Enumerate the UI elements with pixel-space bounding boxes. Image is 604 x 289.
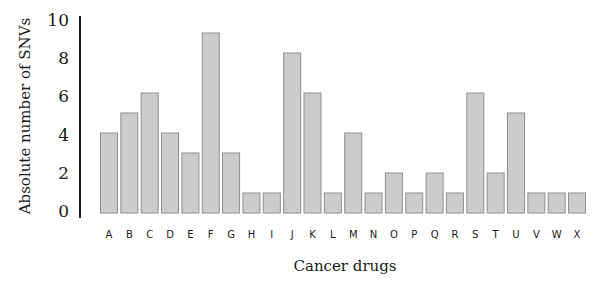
- category-label: S: [472, 229, 478, 240]
- bar-E: [182, 153, 199, 213]
- bar-I: [263, 193, 280, 213]
- category-label: I: [270, 229, 273, 240]
- category-label: Q: [431, 229, 439, 240]
- bar-X: [569, 193, 586, 213]
- y-tick-label: 10: [47, 10, 69, 30]
- category-label: G: [227, 229, 235, 240]
- bar-L: [324, 193, 341, 213]
- category-label: R: [451, 229, 458, 240]
- y-axis-title: Absolute number of SNVs: [16, 18, 34, 216]
- bar-N: [365, 193, 382, 213]
- y-tick-labels: 0246810: [47, 10, 69, 221]
- category-label: L: [330, 229, 336, 240]
- bar-F: [202, 33, 219, 213]
- category-label: C: [146, 229, 153, 240]
- category-label: U: [512, 229, 519, 240]
- category-labels: ABCDEFGHIJKLMNOPQRSTUVWX: [106, 229, 581, 240]
- bar-O: [385, 173, 402, 213]
- bar-chart: 0246810 ABCDEFGHIJKLMNOPQRSTUVWX Absolut…: [0, 0, 604, 289]
- bar-S: [467, 93, 484, 213]
- bar-T: [487, 173, 504, 213]
- y-tick-label: 0: [58, 201, 69, 221]
- category-label: H: [248, 229, 256, 240]
- category-label: O: [390, 229, 398, 240]
- category-label: W: [552, 229, 562, 240]
- category-label: J: [290, 229, 294, 240]
- category-label: V: [533, 229, 540, 240]
- category-label: P: [411, 229, 417, 240]
- category-label: F: [208, 229, 214, 240]
- bars: [101, 33, 586, 213]
- bar-K: [304, 93, 321, 213]
- category-label: A: [106, 229, 113, 240]
- bar-V: [528, 193, 545, 213]
- category-label: M: [349, 229, 358, 240]
- bar-U: [508, 113, 525, 213]
- bar-P: [406, 193, 423, 213]
- bar-C: [141, 93, 158, 213]
- category-label: K: [309, 229, 316, 240]
- bar-G: [223, 153, 240, 213]
- bar-W: [548, 193, 565, 213]
- category-label: N: [370, 229, 377, 240]
- bar-B: [121, 113, 138, 213]
- y-tick-label: 8: [58, 48, 69, 68]
- bar-Q: [426, 173, 443, 213]
- category-label: T: [492, 229, 500, 240]
- y-tick-label: 2: [58, 163, 69, 183]
- x-axis-title: Cancer drugs: [293, 257, 396, 275]
- bar-A: [101, 133, 118, 213]
- bar-R: [446, 193, 463, 213]
- category-label: D: [166, 229, 174, 240]
- category-label: B: [126, 229, 133, 240]
- bar-H: [243, 193, 260, 213]
- y-tick-label: 4: [58, 125, 69, 145]
- y-tick-label: 6: [58, 86, 69, 106]
- bar-D: [162, 133, 179, 213]
- category-label: X: [574, 229, 581, 240]
- category-label: E: [187, 229, 193, 240]
- bar-J: [284, 53, 301, 213]
- bar-M: [345, 133, 362, 213]
